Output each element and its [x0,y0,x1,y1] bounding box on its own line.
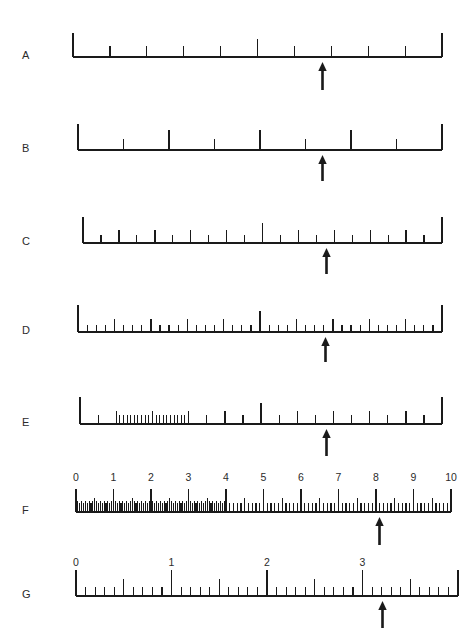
ruler-scale-g [70,566,464,602]
ruler-letter-b: B [22,142,30,154]
ruler-letter-c: C [22,235,30,247]
scale-label-g-1: 1 [169,556,175,568]
scale-label-f-2: 2 [148,471,154,483]
arrow-marker-b [316,155,329,183]
scale-label-f-1: 1 [111,471,117,483]
ruler-scale-f [70,485,457,518]
ruler-scale-a [67,29,448,63]
ruler-figure: ABCDEF012345678910G0123 [0,0,475,628]
scale-label-f-10: 10 [445,471,457,483]
arrow-marker-c [320,248,333,276]
ruler-letter-e: E [22,416,30,428]
arrow-marker-d [319,337,332,364]
scale-label-f-5: 5 [261,471,267,483]
arrow-marker-a [316,62,329,92]
ruler-letter-f: F [22,504,29,516]
ruler-scale-b [72,120,448,156]
scale-label-g-2: 2 [264,556,270,568]
scale-label-f-9: 9 [411,471,417,483]
arrow-marker-g [376,601,389,628]
ruler-letter-a: A [22,49,30,61]
scale-label-f-0: 0 [73,471,79,483]
ruler-scale-c [77,213,448,249]
scale-label-f-3: 3 [186,471,192,483]
scale-label-f-6: 6 [298,471,304,483]
ruler-letter-d: D [22,324,30,336]
scale-label-f-8: 8 [373,471,379,483]
arrow-marker-f [373,517,386,547]
scale-label-g-0: 0 [73,556,79,568]
ruler-scale-d [72,301,448,338]
ruler-scale-e [74,393,448,430]
arrow-marker-e [320,429,333,458]
scale-label-f-4: 4 [223,471,229,483]
ruler-letter-g: G [22,588,31,600]
scale-label-f-7: 7 [336,471,342,483]
scale-label-g-3: 3 [360,556,366,568]
